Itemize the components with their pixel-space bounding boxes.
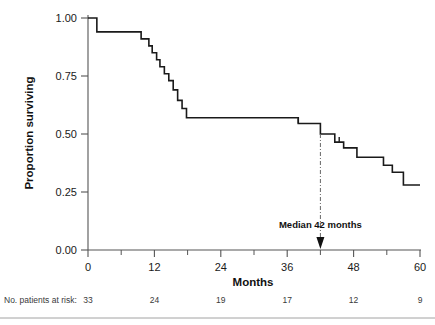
- risk-value-60: 9: [418, 295, 423, 305]
- kaplan-meier-plot: 1.00 0.75 0.50 0.25 0.00 Proportion surv…: [0, 0, 435, 325]
- median-arrow-icon: [316, 237, 324, 249]
- x-tick-label-0: 0: [85, 261, 91, 273]
- x-tick-label-60: 60: [414, 261, 426, 273]
- x-tick-label-24: 24: [215, 261, 227, 273]
- survival-chart-figure: 1.00 0.75 0.50 0.25 0.00 Proportion surv…: [0, 0, 435, 325]
- risk-value-0: 33: [83, 295, 93, 305]
- y-tick-label-000: 0.00: [56, 244, 77, 256]
- y-tick-label-075: 0.75: [56, 70, 77, 82]
- median-annotation-label: Median 42 months: [279, 219, 362, 230]
- risk-value-36: 17: [282, 295, 292, 305]
- x-tick-label-48: 48: [347, 261, 359, 273]
- survival-curve: [88, 18, 420, 185]
- x-tick-label-36: 36: [281, 261, 293, 273]
- y-tick-label-100: 1.00: [56, 12, 77, 24]
- risk-table-label: No. patients at risk:: [4, 295, 77, 305]
- y-axis-ticks: [81, 18, 88, 250]
- x-axis-title: Months: [233, 276, 274, 288]
- x-tick-label-12: 12: [148, 261, 160, 273]
- censor-marks: [298, 119, 339, 143]
- y-tick-label-050: 0.50: [56, 128, 77, 140]
- x-axis-minor-ticks: [121, 250, 387, 255]
- risk-value-12: 24: [150, 295, 160, 305]
- y-axis-title: Proportion surviving: [23, 76, 35, 189]
- risk-value-24: 19: [216, 295, 226, 305]
- y-tick-label-025: 0.25: [56, 186, 77, 198]
- risk-value-48: 12: [349, 295, 359, 305]
